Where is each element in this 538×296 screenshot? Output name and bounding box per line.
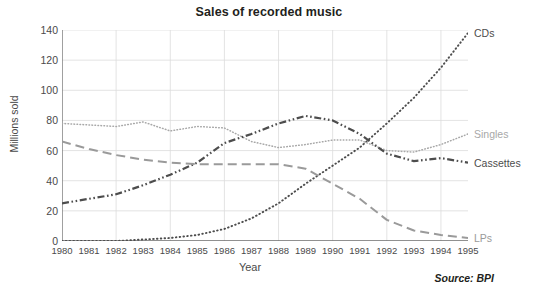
- x-tick-label: 1985: [187, 245, 208, 256]
- source-note: Source: BPI: [434, 272, 494, 284]
- y-tick-label: 100: [40, 84, 58, 96]
- y-tick-label: 120: [40, 54, 58, 66]
- x-tick-label: 1980: [51, 245, 72, 256]
- x-tick-label: 1981: [78, 245, 99, 256]
- y-tick-label: 140: [40, 24, 58, 36]
- y-tick-label: 60: [46, 145, 58, 157]
- chart-figure: Sales of recorded music Millions sold 02…: [0, 0, 538, 296]
- chart-title: Sales of recorded music: [0, 5, 538, 19]
- x-axis-title: Year: [40, 261, 460, 273]
- series-label-cds: CDs: [474, 27, 494, 39]
- x-tick-label: 1992: [376, 245, 397, 256]
- x-tick-label: 1989: [295, 245, 316, 256]
- x-tick-label: 1993: [403, 245, 424, 256]
- plot-area: 0204060801001201401980198119821983198419…: [62, 30, 468, 241]
- x-tick-label: 1988: [268, 245, 289, 256]
- x-tick-label: 1995: [457, 245, 478, 256]
- series-line-singles: [62, 122, 468, 152]
- series-line-lps: [62, 142, 468, 238]
- series-line-cds: [62, 33, 468, 241]
- x-tick-label: 1987: [241, 245, 262, 256]
- series-label-lps: LPs: [474, 232, 492, 244]
- series-line-cassettes: [62, 116, 468, 203]
- series-label-cassettes: Cassettes: [474, 157, 521, 169]
- x-tick-label: 1983: [133, 245, 154, 256]
- series-label-singles: Singles: [474, 128, 508, 140]
- x-tick-label: 1990: [322, 245, 343, 256]
- y-tick-label: 40: [46, 175, 58, 187]
- y-tick-label: 20: [46, 205, 58, 217]
- x-tick-label: 1994: [430, 245, 451, 256]
- y-tick-label: 80: [46, 114, 58, 126]
- x-tick-label: 1986: [214, 245, 235, 256]
- x-tick-label: 1991: [349, 245, 370, 256]
- y-axis-title: Millions sold: [8, 69, 20, 179]
- plot-svg: [62, 30, 468, 241]
- x-tick-label: 1982: [106, 245, 127, 256]
- x-tick-label: 1984: [160, 245, 181, 256]
